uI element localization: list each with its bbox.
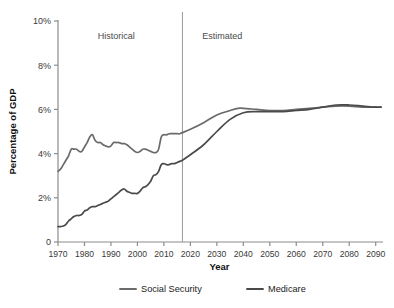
x-tick-label: 2040 xyxy=(234,249,253,259)
x-tick-label: 2020 xyxy=(181,249,200,259)
plot-background xyxy=(0,0,394,308)
x-tick-label: 2010 xyxy=(154,249,173,259)
y-tick-label: 0 xyxy=(46,237,51,247)
x-tick-label: 2080 xyxy=(340,249,359,259)
y-tick-label: 2% xyxy=(38,193,51,203)
legend-label-medicare[interactable]: Medicare xyxy=(268,284,306,294)
y-axis-title: Percentage of GDP xyxy=(7,88,18,175)
x-tick-label: 1970 xyxy=(48,249,67,259)
historical-label: Historical xyxy=(98,31,135,41)
x-tick-label: 2090 xyxy=(366,249,385,259)
x-tick-label: 1990 xyxy=(101,249,120,259)
x-tick-label: 2070 xyxy=(313,249,332,259)
x-axis-title: Year xyxy=(209,261,229,272)
x-tick-label: 2060 xyxy=(287,249,306,259)
y-tick-label: 10% xyxy=(33,16,51,26)
y-tick-label: 4% xyxy=(38,149,51,159)
chart-container: 02%4%6%8%10% 197019801990200020102020203… xyxy=(0,0,394,308)
x-tick-label: 2050 xyxy=(260,249,279,259)
line-chart: 02%4%6%8%10% 197019801990200020102020203… xyxy=(0,0,394,308)
x-tick-label: 2000 xyxy=(128,249,147,259)
y-tick-label: 6% xyxy=(38,105,51,115)
x-tick-label: 2030 xyxy=(207,249,226,259)
estimated-label: Estimated xyxy=(202,31,242,41)
x-tick-label: 1980 xyxy=(75,249,94,259)
legend-label-social-security[interactable]: Social Security xyxy=(141,284,202,294)
y-tick-label: 8% xyxy=(38,61,51,71)
